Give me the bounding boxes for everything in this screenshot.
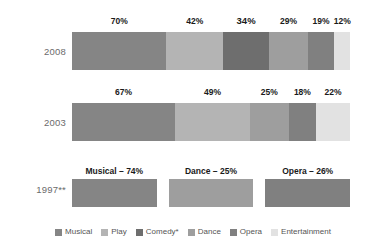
segment-value-label: Musical – 74% (72, 164, 157, 178)
legend-label: Comedy* (146, 228, 179, 236)
legend-item[interactable]: Play (101, 228, 127, 236)
segment-value-label: 12% (334, 14, 350, 28)
bar-segment[interactable] (269, 32, 308, 70)
legend-label: Entertainment (281, 228, 331, 236)
chart-legend: Musical Play Comedy* Dance Opera Enterta… (0, 228, 386, 236)
segment-value-label: 67% (72, 85, 175, 99)
legend-label: Dance (198, 228, 221, 236)
row-year-label: 2003 (0, 118, 66, 128)
bar-segment[interactable] (265, 179, 350, 207)
bar-segment[interactable] (308, 32, 334, 70)
legend-swatch-icon (136, 229, 143, 236)
bar-segment[interactable] (289, 103, 317, 141)
legend-swatch-icon (101, 229, 108, 236)
segment-value-label: 22% (316, 85, 350, 99)
segment-value-label: 70% (72, 14, 166, 28)
segment-value-label: 42% (166, 14, 223, 28)
segment-value-label: Opera – 26% (265, 164, 350, 178)
bar-segment[interactable] (72, 179, 157, 207)
segment-value-label: 49% (175, 85, 250, 99)
bar-segment[interactable] (72, 32, 166, 70)
legend-label: Play (111, 228, 127, 236)
legend-swatch-icon (230, 229, 237, 236)
bar-segment[interactable] (334, 32, 350, 70)
segment-value-label: 25% (250, 85, 288, 99)
bar-track-2008: 70% 42% 34% 29% 19% 12% (72, 14, 350, 70)
row-year-label: 2008 (0, 47, 66, 57)
legend-item[interactable]: Comedy* (136, 228, 179, 236)
bar-segment[interactable] (166, 32, 223, 70)
bar-segment[interactable] (175, 103, 250, 141)
bar-segment[interactable] (72, 103, 175, 141)
legend-swatch-icon (271, 229, 278, 236)
legend-item[interactable]: Opera (230, 228, 262, 236)
legend-label: Opera (240, 228, 262, 236)
bar-track-1997: Musical – 74% Dance – 25% Opera – 26% (72, 163, 350, 207)
segment-value-label: Dance – 25% (169, 164, 254, 178)
segment-value-label: 19% (308, 14, 334, 28)
segment-value-label: 18% (289, 85, 317, 99)
legend-swatch-icon (55, 229, 62, 236)
row-year-label: 1997** (0, 185, 66, 195)
legend-item[interactable]: Entertainment (271, 228, 331, 236)
bar-track-2003: 67% 49% 25% 18% 22% (72, 85, 350, 141)
legend-swatch-icon (188, 229, 195, 236)
segment-value-label: 34% (223, 14, 269, 28)
bar-segment[interactable] (250, 103, 288, 141)
segment-value-label: 29% (269, 14, 308, 28)
bar-segment[interactable] (316, 103, 350, 141)
bar-segment[interactable] (223, 32, 269, 70)
legend-label: Musical (65, 228, 92, 236)
bar-segment[interactable] (169, 179, 254, 207)
legend-item[interactable]: Musical (55, 228, 92, 236)
legend-item[interactable]: Dance (188, 228, 221, 236)
segmented-bar-chart: 2008 70% 42% 34% 29% 19% 12% 2003 67% 49… (0, 0, 386, 250)
